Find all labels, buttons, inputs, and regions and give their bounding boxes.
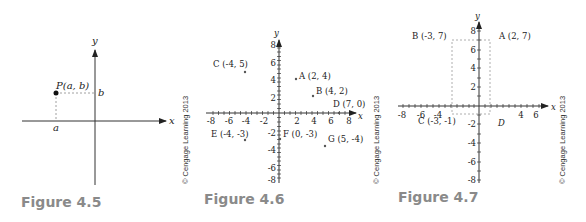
figure-caption: Figure 4.6 xyxy=(204,191,284,207)
point-p-x-label: a xyxy=(53,122,59,133)
svg-text:6: 6 xyxy=(328,116,333,126)
figure-caption: Figure 4.7 xyxy=(398,189,478,205)
x-axis-label: x xyxy=(551,102,556,112)
point-e xyxy=(244,139,246,141)
svg-text:-8: -8 xyxy=(207,116,215,126)
point-b-label: B (-3, 7) xyxy=(412,31,447,41)
point-a-label: A (2, 7) xyxy=(498,31,531,41)
figure-4-7: x y -8 -6 -4 4 6 8 6 4 2 -2 -4 -6 -8 B (… xyxy=(398,11,556,185)
x-axis-label: x xyxy=(358,111,363,121)
y-axis-label: y xyxy=(474,11,480,21)
svg-text:4: 4 xyxy=(311,116,316,126)
point-p xyxy=(54,91,59,96)
copyright-notice: © Cengage Learning 2013 xyxy=(372,96,381,184)
copyright-notice: © Cengage Learning 2013 xyxy=(181,96,190,184)
svg-text:6: 6 xyxy=(271,58,276,68)
point-b-label: B (4, 2) xyxy=(316,86,348,96)
x-axis-label: x xyxy=(169,115,175,126)
point-d xyxy=(338,112,340,114)
svg-text:-2: -2 xyxy=(268,128,276,138)
svg-text:-4: -4 xyxy=(268,145,276,155)
point-g-label: G (5, -4) xyxy=(328,134,363,144)
svg-text:4: 4 xyxy=(518,110,523,120)
svg-text:2: 2 xyxy=(471,82,476,92)
svg-text:6: 6 xyxy=(471,45,476,55)
point-d-label: D xyxy=(497,118,505,128)
figure-4-6: x y -8 -6 -4 -2 2 4 6 8 8 6 4 2 -2 -4 -6… xyxy=(206,28,365,185)
y-axis-label: y xyxy=(91,35,98,46)
svg-text:2: 2 xyxy=(271,93,276,103)
point-e-label: E (-4, -3) xyxy=(211,129,249,139)
point-f-label: F (0, -3) xyxy=(283,129,317,139)
svg-text:8: 8 xyxy=(471,26,476,36)
figure-caption: Figure 4.5 xyxy=(21,194,101,210)
point-g xyxy=(324,145,326,147)
svg-text:-2: -2 xyxy=(260,116,268,126)
svg-text:-8: -8 xyxy=(468,175,476,185)
point-b xyxy=(312,95,314,97)
svg-text:-4: -4 xyxy=(242,116,250,126)
svg-text:-6: -6 xyxy=(268,163,276,173)
svg-text:-6: -6 xyxy=(468,157,476,167)
copyright-notice: © Cengage Learning 2013 xyxy=(558,96,567,184)
svg-text:-8: -8 xyxy=(398,110,406,120)
point-c-label: C (-3, -1) xyxy=(418,116,456,126)
svg-text:-6: -6 xyxy=(225,116,233,126)
svg-text:-2: -2 xyxy=(468,119,476,129)
point-p-label: P(a, b) xyxy=(55,80,89,91)
svg-text:4: 4 xyxy=(471,63,476,73)
point-c xyxy=(244,71,246,73)
svg-text:4: 4 xyxy=(271,75,276,85)
point-a-label: A (2, 4) xyxy=(298,71,331,81)
point-c-label: C (-4, 5) xyxy=(213,59,248,69)
point-d-label: D (7, 0) xyxy=(333,99,365,109)
point-f xyxy=(279,138,281,140)
svg-text:-8: -8 xyxy=(268,175,276,185)
point-a xyxy=(295,78,297,80)
svg-text:8: 8 xyxy=(346,116,351,126)
svg-text:6: 6 xyxy=(533,110,538,120)
svg-text:8: 8 xyxy=(271,40,276,50)
figure-4-5: x y P(a, b) b a xyxy=(22,35,175,185)
svg-text:2: 2 xyxy=(294,116,299,126)
y-axis-label: y xyxy=(273,28,279,38)
svg-text:-4: -4 xyxy=(468,138,476,148)
point-p-y-label: b xyxy=(98,87,104,98)
